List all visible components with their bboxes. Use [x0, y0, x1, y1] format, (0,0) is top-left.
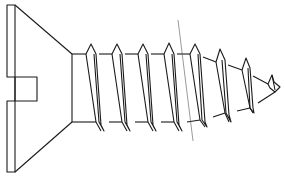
head-cone-bottom [15, 122, 72, 172]
screw-threads [86, 43, 280, 131]
head-slot [7, 5, 37, 172]
screw-diagram [0, 0, 285, 178]
head-cone-top [15, 5, 72, 54]
screw-drawing [0, 0, 285, 178]
screw-shank [72, 54, 275, 122]
reference-line [178, 20, 193, 141]
screw-head [7, 5, 72, 172]
